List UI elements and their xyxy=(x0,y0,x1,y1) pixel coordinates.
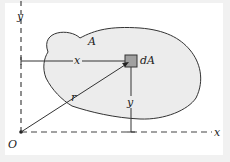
radius-label: r xyxy=(71,91,77,104)
region-a-shape xyxy=(44,27,201,119)
element-da xyxy=(125,55,137,67)
origin-label: O xyxy=(8,138,17,151)
y-distance-label: y xyxy=(126,96,134,109)
y-axis-label: y xyxy=(16,10,24,23)
x-distance-label: x xyxy=(74,54,81,67)
x-axis-label: x xyxy=(214,126,221,139)
element-label: dA xyxy=(140,54,155,67)
area-diagram: y x O A dA x y r xyxy=(0,0,230,162)
region-label: A xyxy=(87,35,96,48)
